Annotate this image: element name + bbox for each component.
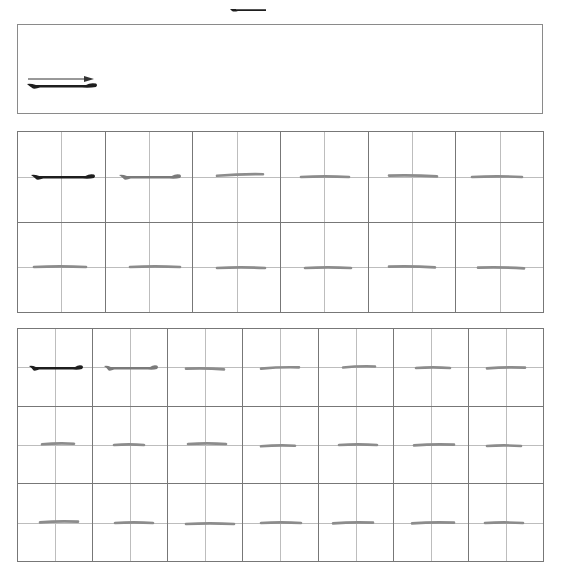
practice-stroke [389,264,435,269]
practice-stroke [487,444,521,448]
practice-cell [456,223,544,314]
practice-cell [243,407,318,485]
practice-cell [243,484,318,562]
practice-cell [319,484,394,562]
practice-grid-6x2 [17,131,544,313]
practice-cell [93,484,168,562]
practice-stroke [130,265,180,269]
practice-cell [168,484,243,562]
example-stroke-dark [28,363,84,373]
practice-stroke [261,521,301,525]
practice-cell [369,132,457,223]
practice-stroke [42,442,74,447]
practice-cell [394,407,469,485]
practice-stroke [472,175,522,179]
practice-cell [243,329,318,407]
practice-grid-7x3 [17,328,544,562]
practice-stroke [343,364,375,369]
practice-cell [469,407,544,485]
practice-cell [319,329,394,407]
practice-stroke [301,175,349,179]
practice-stroke [487,365,525,370]
practice-stroke [389,174,437,179]
practice-cell [168,407,243,485]
practice-cell [18,329,93,407]
practice-cell [394,329,469,407]
practice-cell [18,407,93,485]
practice-cell [106,223,194,314]
practice-cell [469,329,544,407]
practice-stroke [186,366,224,371]
practice-stroke [485,521,523,525]
practice-cell [18,484,93,562]
practice-cell [168,329,243,407]
practice-cell [281,132,369,223]
practice-cell [469,484,544,562]
cropped-stroke-example [228,0,268,3]
practice-cell [18,132,106,223]
practice-stroke [34,265,86,269]
practice-stroke [114,443,144,447]
practice-stroke [416,366,450,370]
example-stroke-dark [30,172,96,182]
practice-cell [193,132,281,223]
practice-stroke [188,442,226,446]
practice-stroke [339,443,377,447]
practice-stroke [333,521,373,526]
practice-cell [93,329,168,407]
practice-cell [319,407,394,485]
practice-cell [193,223,281,314]
practice-stroke [217,172,263,178]
arrow-right-icon [28,68,94,76]
practice-cell [106,132,194,223]
practice-cell [281,223,369,314]
practice-stroke [40,520,78,525]
practice-cell [369,223,457,314]
practice-stroke [478,265,524,270]
stroke-demo-box [17,24,543,114]
practice-stroke [217,266,265,270]
practice-stroke [261,444,295,449]
practice-cell [456,132,544,223]
practice-stroke [261,365,299,370]
example-stroke-dark [26,76,98,86]
practice-stroke [412,521,454,526]
example-stroke-gray [118,172,182,182]
practice-stroke [414,443,454,448]
practice-stroke [115,521,153,525]
practice-stroke [305,266,351,270]
practice-cell [394,484,469,562]
practice-stroke [186,522,234,526]
practice-cell [93,407,168,485]
practice-cell [18,223,106,314]
example-stroke-gray [103,363,159,373]
